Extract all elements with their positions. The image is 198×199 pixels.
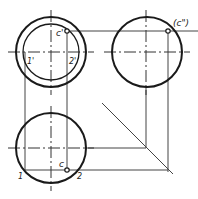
projection-diagram: c' (c") c 1' 2' 1 2 (0, 0, 198, 199)
point-c-top (65, 168, 69, 172)
label-2-top: 2 (77, 172, 82, 181)
points (65, 29, 170, 172)
point-c-front (65, 29, 69, 33)
label-1-top: 1 (18, 172, 23, 181)
label-c-front: c' (56, 28, 63, 38)
label-1-front: 1' (27, 57, 34, 66)
point-c-side (166, 29, 170, 33)
miter-line (102, 103, 173, 174)
label-2-front: 2' (69, 57, 76, 66)
diagram-svg: c' (c") c 1' 2' 1 2 (0, 0, 198, 199)
label-c-top: c (59, 159, 64, 169)
label-c-side: (c") (173, 18, 189, 28)
